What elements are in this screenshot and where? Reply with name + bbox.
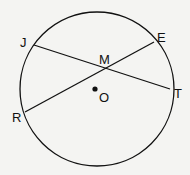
label-O: O bbox=[99, 90, 109, 105]
center-point-O bbox=[92, 86, 97, 91]
label-R: R bbox=[12, 110, 21, 125]
circle-diagram: J E M O T R bbox=[0, 0, 190, 175]
label-E: E bbox=[157, 30, 166, 45]
label-T: T bbox=[174, 86, 182, 101]
label-M: M bbox=[99, 52, 110, 67]
label-J: J bbox=[20, 35, 27, 50]
